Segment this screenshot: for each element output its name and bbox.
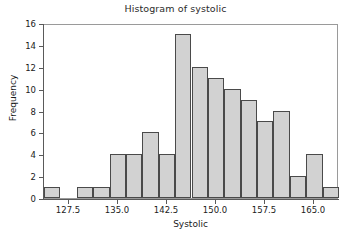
y-tick-mark — [39, 90, 43, 91]
plot-area — [43, 24, 338, 199]
histogram-bar — [175, 34, 191, 198]
y-tick-mark — [39, 68, 43, 69]
y-tick-label: 4 — [16, 151, 36, 160]
y-tick-label: 0 — [16, 195, 36, 204]
y-tick-mark — [39, 133, 43, 134]
histogram-bar — [142, 132, 158, 198]
histogram-figure: Histogram of systolic 0246810121416 127.… — [0, 0, 351, 239]
x-tick-label: 135.0 — [97, 205, 137, 215]
histogram-bar — [44, 187, 60, 198]
y-tick-mark — [39, 155, 43, 156]
x-tick-mark — [166, 200, 167, 204]
histogram-bar — [257, 121, 273, 198]
x-tick-label: 142.5 — [146, 205, 186, 215]
y-tick-label: 2 — [16, 173, 36, 182]
y-axis-title: Frequency — [8, 58, 18, 138]
x-axis-line — [43, 199, 339, 200]
bar-series — [44, 25, 337, 198]
y-tick-mark — [39, 112, 43, 113]
y-tick-label: 14 — [16, 42, 36, 51]
y-tick-mark — [39, 199, 43, 200]
x-tick-mark — [313, 200, 314, 204]
histogram-bar — [306, 154, 322, 198]
y-tick-label: 10 — [16, 86, 36, 95]
x-tick-label: 150.0 — [195, 205, 235, 215]
y-tick-mark — [39, 24, 43, 25]
x-tick-mark — [215, 200, 216, 204]
histogram-bar — [273, 111, 289, 199]
y-tick-mark — [39, 46, 43, 47]
y-tick-label: 8 — [16, 108, 36, 117]
histogram-bar — [224, 89, 240, 198]
x-tick-label: 165.0 — [293, 205, 333, 215]
x-axis-title: Systolic — [43, 219, 338, 229]
histogram-bar — [290, 176, 306, 198]
histogram-bar — [323, 187, 339, 198]
x-tick-mark — [68, 200, 69, 204]
x-tick-label: 157.5 — [244, 205, 284, 215]
y-tick-label: 6 — [16, 129, 36, 138]
histogram-bar — [159, 154, 175, 198]
histogram-bar — [110, 154, 126, 198]
y-tick-label: 12 — [16, 64, 36, 73]
y-axis-line — [43, 24, 44, 200]
histogram-bar — [208, 78, 224, 198]
y-tick-mark — [39, 177, 43, 178]
x-tick-mark — [264, 200, 265, 204]
x-tick-mark — [117, 200, 118, 204]
y-tick-label: 16 — [16, 20, 36, 29]
histogram-bar — [126, 154, 142, 198]
x-tick-label: 127.5 — [48, 205, 88, 215]
histogram-bar — [241, 100, 257, 198]
histogram-bar — [93, 187, 109, 198]
chart-title: Histogram of systolic — [0, 3, 351, 14]
histogram-bar — [77, 187, 93, 198]
histogram-bar — [192, 67, 208, 198]
